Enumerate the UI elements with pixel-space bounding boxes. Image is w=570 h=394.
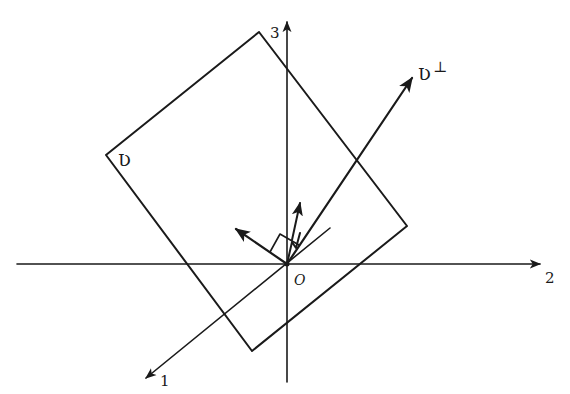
orthogonal-complement-diagram: 3 2 1 O Ʋ Ʋ ⊥ [0,0,570,394]
right-angle-marker [270,234,299,252]
axis-1-label: 1 [160,372,170,390]
perp-superscript: ⊥ [433,58,447,76]
axis-1 [146,228,330,378]
axis-3-label: 3 [270,24,280,42]
plane-v [106,32,407,351]
axis-2-label: 2 [545,269,555,287]
plane-v-label: Ʋ [118,150,131,170]
origin-label: O [294,272,306,288]
origin-point [285,262,290,267]
v-perp-label: Ʋ [418,64,431,84]
